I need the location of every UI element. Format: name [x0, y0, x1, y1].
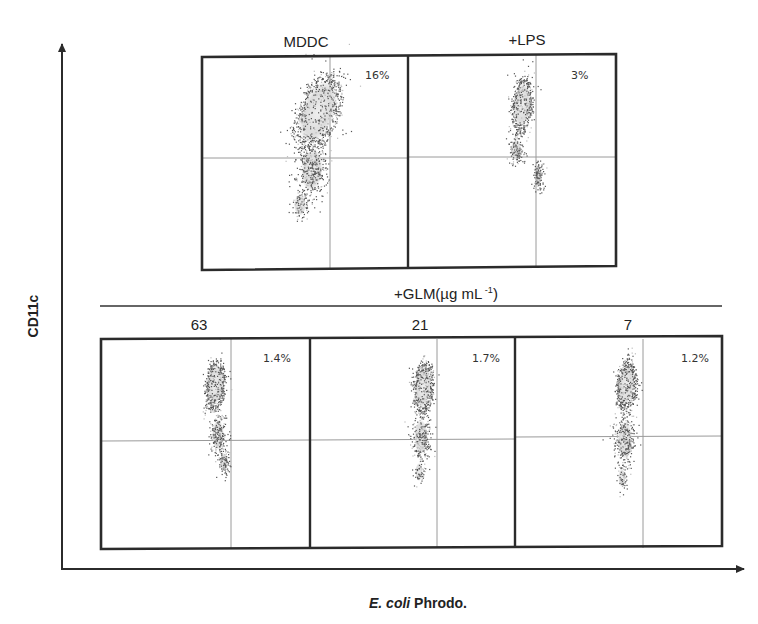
flow-cytometry-figure: CD11c E. coli Phrodo. MDDC +LPS +GLM(µg …	[0, 0, 758, 624]
panel-title-glm7: 7	[624, 316, 632, 333]
y-axis-label: CD11c	[25, 294, 41, 337]
dot-plot-population	[203, 338, 233, 481]
dot-plot-population	[506, 59, 548, 194]
panel-glm21: 1.7%	[311, 339, 515, 548]
panel-glm63: 1.4%	[102, 338, 310, 548]
panel-title-mddc: MDDC	[284, 33, 329, 50]
quadrant-percent: 16%	[365, 69, 389, 82]
panel-lps: 3%	[409, 55, 615, 266]
glm-group-label: +GLM(µg mL -1)	[394, 285, 498, 302]
dot-plot-population	[280, 44, 361, 222]
dot-plot-population	[603, 348, 643, 498]
x-axis-label: E. coli Phrodo.	[369, 595, 467, 611]
quadrant-percent: 1.4%	[263, 352, 291, 365]
panel-glm7: 1.2%	[516, 339, 722, 548]
quadrant-gate-horizontal	[102, 440, 310, 441]
panel-title-lps: +LPS	[508, 31, 545, 48]
quadrant-percent: 3%	[571, 69, 588, 82]
quadrant-percent: 1.2%	[681, 352, 709, 365]
panel-mddc: 16%	[202, 44, 408, 270]
panel-title-glm21: 21	[412, 316, 429, 333]
panel-title-glm63: 63	[191, 316, 208, 333]
dot-plot-population	[404, 355, 439, 487]
quadrant-percent: 1.7%	[472, 352, 500, 365]
